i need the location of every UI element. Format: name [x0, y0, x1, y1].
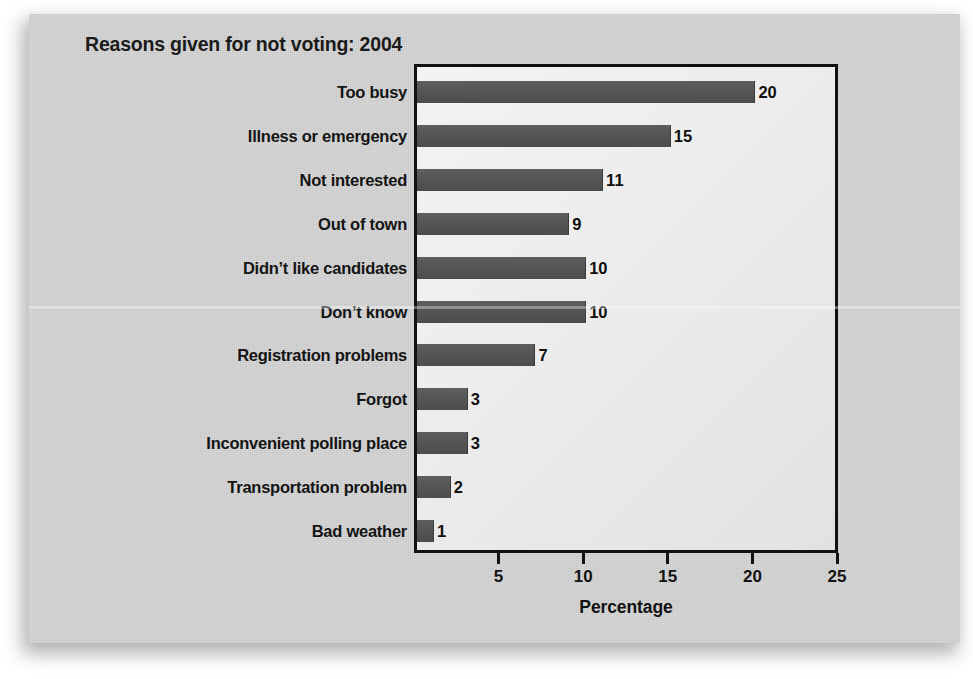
- category-label: Too busy: [337, 81, 407, 103]
- chart-page: Reasons given for not voting: 2004 Too b…: [0, 0, 973, 679]
- category-label: Don’t know: [321, 301, 407, 323]
- value-label: 11: [606, 169, 623, 191]
- chart-card: Reasons given for not voting: 2004 Too b…: [29, 14, 960, 643]
- value-label: 7: [538, 344, 547, 366]
- category-label: Bad weather: [312, 520, 407, 542]
- x-axis-tick: [751, 553, 754, 564]
- value-label: 9: [572, 213, 581, 235]
- plot-area: [417, 67, 835, 550]
- bar: [417, 213, 569, 235]
- bar: [417, 388, 468, 410]
- x-axis-tick: [836, 553, 839, 564]
- category-label: Out of town: [318, 213, 407, 235]
- bar: [417, 301, 586, 323]
- x-axis-tick: [497, 553, 500, 564]
- value-label: 2: [454, 476, 463, 498]
- value-label: 3: [471, 432, 480, 454]
- chart-title: Reasons given for not voting: 2004: [85, 33, 402, 56]
- bar: [417, 257, 586, 279]
- category-axis-labels: Too busyIllness or emergencyNot interest…: [29, 64, 407, 553]
- bar: [417, 520, 434, 542]
- category-label: Transportation problem: [227, 476, 407, 498]
- x-axis-tick-label: 5: [494, 567, 503, 587]
- category-label: Inconvenient polling place: [206, 432, 407, 454]
- category-label: Registration problems: [237, 344, 407, 366]
- bar: [417, 344, 535, 366]
- plot-frame: [414, 64, 838, 553]
- category-label: Didn’t like candidates: [243, 257, 407, 279]
- bar: [417, 169, 603, 191]
- value-label: 1: [437, 520, 446, 542]
- category-label: Forgot: [356, 388, 407, 410]
- x-axis-tick-label: 20: [743, 567, 762, 587]
- x-axis-tick: [582, 553, 585, 564]
- bar: [417, 125, 671, 147]
- value-label: 15: [674, 125, 692, 147]
- category-label: Illness or emergency: [248, 125, 407, 147]
- value-label: 20: [758, 81, 776, 103]
- value-label: 3: [471, 388, 480, 410]
- x-axis-title: Percentage: [414, 597, 838, 618]
- x-axis-tick-label: 10: [574, 567, 593, 587]
- category-label: Not interested: [300, 169, 407, 191]
- bar: [417, 81, 755, 103]
- x-axis-tick-label: 25: [828, 567, 847, 587]
- bar: [417, 476, 451, 498]
- value-label: 10: [589, 301, 607, 323]
- bar: [417, 432, 468, 454]
- x-axis-tick: [666, 553, 669, 564]
- value-label: 10: [589, 257, 607, 279]
- x-axis-tick-label: 15: [658, 567, 677, 587]
